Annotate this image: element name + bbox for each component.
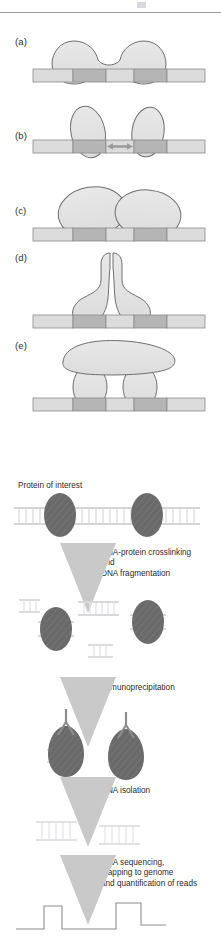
dna-fragment-icon-c <box>88 645 113 657</box>
dna-fragment-icon-isolated-right <box>99 826 140 844</box>
dna-duplex-icon-full <box>14 508 200 524</box>
dna-fragment-icon-b <box>78 602 119 615</box>
stage-immunoprecipitated-complexes <box>47 709 144 780</box>
read-density-trace-icon <box>16 903 166 929</box>
protein-ellipse-icon-1 <box>44 493 76 537</box>
stage-fragmented-chromatin <box>19 600 166 657</box>
figure-container: (a) (b) (c) (d) (e) <box>0 0 221 945</box>
protein-ellipse-icon-4 <box>132 600 164 644</box>
protein-ellipse-icon-3 <box>40 607 72 651</box>
protein-ellipse-icon-6 <box>108 729 144 780</box>
dna-fragment-icon-a <box>19 600 40 612</box>
protein-ellipse-icon-2 <box>131 493 163 537</box>
stage-intact-chromatin <box>14 493 200 537</box>
dna-fragment-icon-isolated-left <box>36 822 77 840</box>
chipseq-workflow-diagram <box>0 0 221 945</box>
protein-ellipse-icon-5 <box>48 726 84 777</box>
stage-isolated-dna <box>36 822 140 844</box>
